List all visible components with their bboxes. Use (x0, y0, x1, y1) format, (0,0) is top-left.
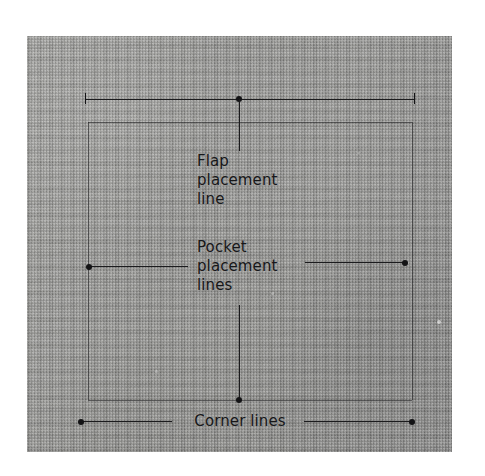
pocket-outline-bottom-edge (88, 400, 412, 401)
pocket-outline-right-edge (412, 122, 413, 400)
pocket-placement-leader-left (90, 266, 188, 267)
pocket-placement-label: Pocket placement lines (197, 238, 278, 295)
fabric-speck (357, 152, 360, 154)
flap-placement-leader-line (85, 99, 414, 100)
pocket-outline-top-edge (88, 122, 412, 123)
corner-leader-left-dot (78, 419, 84, 425)
flap-label-leader (239, 99, 240, 151)
flap-leader-right-tick (414, 93, 415, 104)
pocket-label-bottom-leader (239, 305, 240, 401)
flap-placement-label: Flap placement line (197, 152, 278, 209)
corner-leader-right-dot (409, 419, 415, 425)
fabric-speck (437, 320, 441, 324)
corner-lines-leader-right (304, 421, 412, 422)
corner-lines-label: Corner lines (176, 412, 304, 431)
pocket-leader-left-dot (86, 264, 92, 270)
pocket-outline-left-edge (88, 122, 89, 400)
pocket-placement-leader-right (305, 262, 405, 263)
fabric-speck (155, 370, 158, 373)
figure-canvas: Flap placement line Pocket placement lin… (0, 0, 485, 476)
pocket-bottom-leader-dot (236, 397, 242, 403)
corner-lines-leader-left (82, 421, 172, 422)
pocket-leader-right-dot (402, 260, 408, 266)
flap-leader-left-tick (85, 93, 86, 104)
